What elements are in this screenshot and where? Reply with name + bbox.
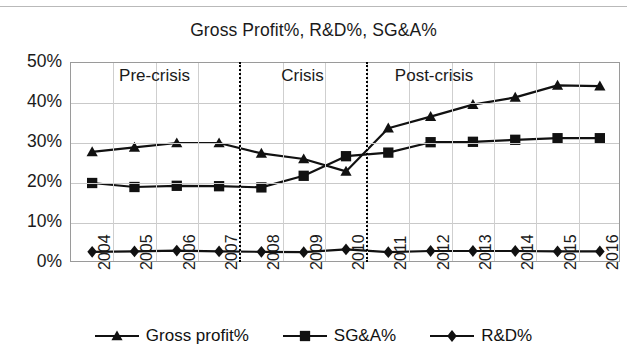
x-tick-2015: 2015 [563, 234, 579, 270]
y-axis-tick-labels: 0%10%20%30%40%50% [0, 62, 66, 262]
legend-marker-square-icon [283, 329, 327, 343]
gridline-vertical [494, 63, 495, 261]
y-tick-40: 40% [27, 93, 62, 111]
series-layer [71, 63, 621, 263]
gridline-vertical [156, 63, 157, 261]
x-tick-2007: 2007 [224, 234, 240, 270]
gridline-vertical [198, 63, 199, 261]
gridline-vertical [113, 63, 114, 261]
chart-legend: Gross profit%SG&A%R&D% [0, 327, 627, 344]
legend-item-r-d[interactable]: R&D% [430, 327, 532, 344]
annotation-crisis: Crisis [281, 66, 324, 86]
chart-canvas: Gross Profit%, R&D%, SG&A% 0%10%20%30%40… [0, 0, 627, 356]
legend-label: SG&A% [334, 327, 396, 344]
x-tick-2012: 2012 [436, 234, 452, 270]
gridline-vertical [283, 63, 284, 261]
x-axis-tick-labels: 2004200520062007200820092010201120122013… [70, 268, 620, 324]
data-point-diamond [426, 245, 436, 257]
legend-label: Gross profit% [146, 327, 249, 344]
divider-2010-2011 [366, 62, 368, 262]
x-tick-2005: 2005 [139, 234, 155, 270]
gridline-vertical [325, 63, 326, 261]
x-tick-2013: 2013 [478, 234, 494, 270]
y-tick-20: 20% [27, 173, 62, 191]
data-point-square [383, 147, 393, 157]
legend-item-gross-profit[interactable]: Gross profit% [95, 327, 249, 344]
series-gross-profit [87, 80, 606, 176]
chart-title: Gross Profit%, R&D%, SG&A% [0, 20, 627, 41]
divider-2007-2008 [239, 62, 241, 262]
plot-area [70, 62, 620, 262]
y-tick-0: 0% [37, 253, 62, 271]
y-tick-10: 10% [27, 213, 62, 231]
data-point-square [299, 171, 309, 181]
gridline-vertical [452, 63, 453, 261]
x-tick-2014: 2014 [520, 234, 536, 270]
x-tick-2006: 2006 [182, 234, 198, 270]
y-tick-50: 50% [27, 53, 62, 71]
scan-artifact-line [0, 6, 627, 7]
data-point-square [468, 137, 478, 147]
data-point-square [552, 133, 562, 143]
x-tick-2010: 2010 [351, 234, 367, 270]
gridline-vertical [579, 63, 580, 261]
x-tick-2011: 2011 [393, 236, 409, 270]
legend-marker-diamond-icon [430, 329, 474, 343]
y-tick-30: 30% [27, 133, 62, 151]
annotation-post-crisis: Post-crisis [395, 66, 473, 86]
x-tick-2008: 2008 [266, 234, 282, 270]
data-point-square [341, 151, 351, 161]
gridline-vertical [409, 63, 410, 261]
data-point-square [595, 133, 605, 143]
annotation-pre-crisis: Pre-crisis [119, 66, 190, 86]
data-point-diamond [553, 246, 563, 258]
x-tick-2009: 2009 [309, 234, 325, 270]
x-tick-2016: 2016 [605, 234, 621, 270]
legend-label: R&D% [481, 327, 532, 344]
legend-item-sg-a[interactable]: SG&A% [283, 327, 396, 344]
series-line [92, 138, 600, 187]
legend-marker-triangle-icon [95, 329, 139, 343]
gridline-vertical [536, 63, 537, 261]
x-tick-2004: 2004 [97, 234, 113, 270]
